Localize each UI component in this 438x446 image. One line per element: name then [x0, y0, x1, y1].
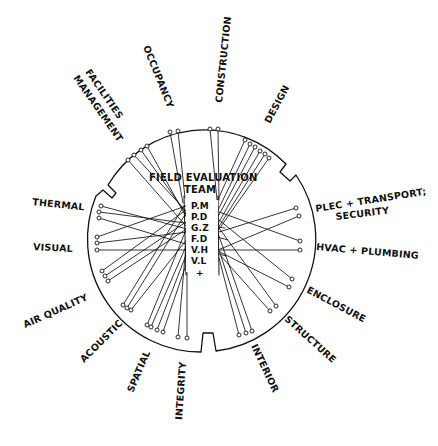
label-structure: STRUCTURE	[283, 313, 339, 365]
label-design: DESIGN	[262, 83, 291, 125]
label-air-quality: AIR QUALITY	[21, 292, 89, 330]
label-construction: CONSTRUCTION	[213, 16, 233, 103]
field-evaluation-team-diagram: FIELD EVALUATION TEAM P.M P.D G.Z F.D V.…	[0, 0, 438, 446]
label-occupancy: OCCUPANCY	[141, 44, 176, 110]
team-member: G.Z	[191, 223, 209, 233]
label-visual: VISUAL	[33, 241, 73, 254]
team-member: V.H	[191, 245, 208, 255]
team-member: +	[196, 268, 204, 278]
label-hvac-plumbing: HVAC + PLUMBING	[316, 241, 420, 261]
label-spatial: SPATIAL	[125, 349, 152, 394]
team-member: P.M	[191, 201, 209, 211]
team-member: V.L	[191, 256, 207, 266]
label-acoustic: ACOUSTIC	[78, 317, 125, 364]
team-member: P.D	[191, 212, 207, 222]
title-team: TEAM	[184, 184, 216, 195]
team-member: F.D	[191, 234, 207, 244]
label-integrity: INTEGRITY	[173, 361, 188, 420]
title-field-evaluation: FIELD EVALUATION	[149, 172, 258, 183]
label-enclosure: ENCLOSURE	[305, 284, 368, 324]
label-interior: INTERIOR	[249, 342, 281, 394]
label-thermal: THERMAL	[32, 196, 85, 212]
